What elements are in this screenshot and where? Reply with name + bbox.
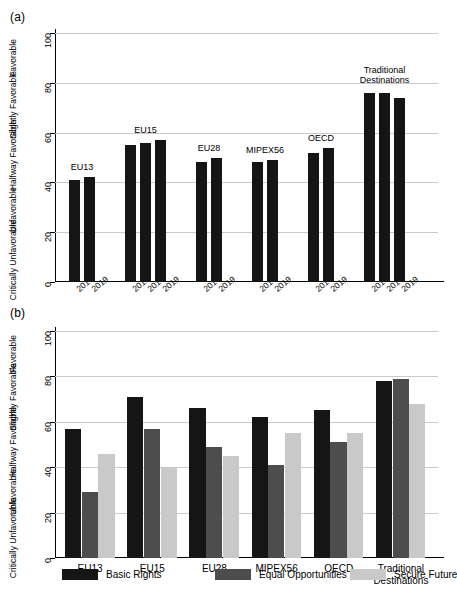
panel-b-y-tick-label: 60 [44, 422, 53, 432]
bar [206, 447, 222, 558]
group-label: MIPEX56 [246, 146, 284, 156]
panel-a-gridline [55, 33, 438, 34]
bar [140, 143, 151, 282]
legend-swatch [350, 569, 386, 580]
bar [65, 429, 81, 558]
bar [125, 145, 136, 282]
bar [308, 153, 319, 282]
panel-a: (a) 020406080100FavorableSlightly Favora… [0, 0, 444, 300]
group-label: EU13 [71, 163, 94, 173]
bar [82, 492, 98, 558]
panel-b-gridline [55, 376, 438, 377]
panel-a-y-category-label: Halfway Favorable [9, 120, 23, 190]
panel-a-y-tick-label: 0 [44, 282, 53, 287]
legend-label: Secure Future [394, 568, 457, 581]
bar [223, 456, 239, 558]
bar [161, 467, 177, 558]
bar [196, 162, 207, 282]
bar [409, 404, 425, 558]
panel-a-y-tick-label: 20 [44, 232, 53, 242]
bar [155, 140, 166, 282]
bar [127, 397, 143, 558]
panel-a-plot-area: 020406080100FavorableSlightly FavorableH… [55, 33, 438, 282]
bar [379, 93, 390, 282]
panel-b-y-tick-label: 80 [44, 376, 53, 386]
bar [364, 93, 375, 282]
panel-a-y-axis [55, 29, 56, 282]
panel-b-y-tick-label: 20 [44, 513, 53, 523]
bar [98, 454, 114, 558]
panel-b: (b) 020406080100FavorableSlightly Favora… [0, 300, 444, 594]
chart-legend: Basic RightsEqual OpportunitiesSecure Fu… [0, 566, 444, 588]
panel-a-y-tick-label: 80 [44, 83, 53, 93]
bar [393, 379, 409, 558]
bar [330, 442, 346, 558]
panel-b-y-category-label: Halfway Favorable [9, 407, 23, 477]
bar [323, 148, 334, 282]
bar [285, 433, 301, 558]
panel-b-y-axis [55, 327, 56, 558]
bar [268, 465, 284, 558]
panel-a-y-tick-label: 60 [44, 133, 53, 143]
group-label: EU15 [134, 126, 157, 136]
bar [267, 160, 278, 282]
bar [252, 162, 263, 282]
bar [376, 381, 392, 558]
legend-swatch [62, 569, 98, 580]
bar [252, 417, 268, 558]
panel-a-y-tick-label: 40 [44, 182, 53, 192]
legend-label: Equal Opportunities [259, 568, 347, 581]
panel-b-y-tick-label: 100 [44, 331, 53, 346]
bar [314, 410, 330, 558]
panel-b-gridline [55, 331, 438, 332]
bar [84, 177, 95, 282]
panel-b-y-tick-label: 0 [44, 558, 53, 563]
group-label: OECD [308, 134, 334, 144]
panel-a-y-category-label: Critically Unfavorable [9, 219, 23, 299]
panel-b-plot-area: 020406080100FavorableSlightly FavorableH… [55, 331, 438, 558]
legend-label: Basic Rights [106, 568, 162, 581]
group-label: TraditionalDestinations [360, 66, 410, 86]
panel-a-label: (a) [10, 10, 25, 24]
panel-b-y-tick-label: 40 [44, 467, 53, 477]
bar [347, 433, 363, 558]
bar [211, 158, 222, 283]
legend-swatch [215, 569, 251, 580]
bar [394, 98, 405, 282]
panel-b-label: (b) [10, 306, 25, 320]
bar [189, 408, 205, 558]
panel-a-y-tick-label: 100 [44, 33, 53, 48]
bar [144, 429, 160, 558]
bar [69, 180, 80, 282]
group-label: EU28 [198, 144, 221, 154]
